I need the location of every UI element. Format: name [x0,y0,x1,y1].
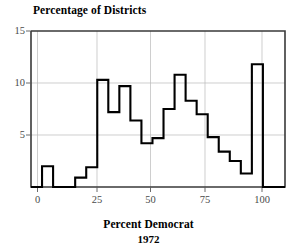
xtick-label-50: 50 [136,194,166,205]
xtick-label-75: 75 [190,194,220,205]
x-axis-label: Percent Democrat [0,218,297,230]
gridlines-vertical [38,31,263,187]
gridlines-horizontal [31,83,285,135]
ytick-label-15: 15 [3,25,25,36]
ytick-label-10: 10 [3,77,25,88]
xtick-label-100: 100 [247,194,277,205]
ytick-label-5: 5 [3,129,25,140]
histogram-figure: Percentage of Districts [0,0,297,251]
xtick-label-25: 25 [82,194,112,205]
plot-canvas [0,0,297,251]
xtick-label-0: 0 [23,194,53,205]
plot-frame [31,31,285,187]
x-axis-label-year: 1972 [0,233,297,245]
